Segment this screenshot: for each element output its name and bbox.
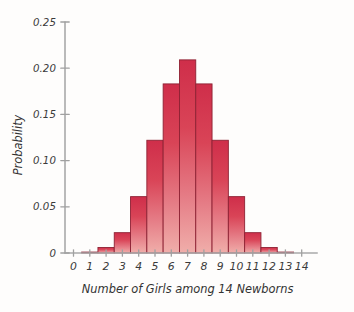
y-tick-label-0.05: 0.05 — [33, 201, 56, 212]
x-tick-label-14: 14 — [295, 260, 309, 273]
x-tick-label-8: 8 — [200, 260, 207, 273]
y-tick-group: 00.050.100.150.200.25 — [33, 17, 69, 259]
y-tick-label-0.20: 0.20 — [33, 63, 56, 74]
x-tick-label-4: 4 — [135, 260, 142, 273]
y-axis-title: Probability — [11, 114, 25, 175]
x-tick-label-6: 6 — [168, 260, 175, 273]
x-tick-label-9: 9 — [217, 260, 224, 273]
x-axis-title: Number of Girls among 14 Newborns — [82, 282, 294, 296]
probability-histogram-figure: 00.050.100.150.200.25 012345678910111213… — [0, 0, 354, 312]
bar-5 — [147, 140, 163, 253]
bar-9 — [212, 140, 228, 253]
x-tick-label-10: 10 — [230, 260, 244, 273]
bar-6 — [163, 84, 179, 253]
plot-area: 00.050.100.150.200.25 012345678910111213… — [0, 0, 354, 312]
chart-canvas: 00.050.100.150.200.25 012345678910111213… — [0, 0, 354, 312]
x-tick-label-11: 11 — [246, 260, 260, 273]
x-tick-label-2: 2 — [103, 260, 110, 273]
y-tick-label-0: 0 — [49, 248, 56, 259]
bar-4 — [131, 197, 147, 253]
bars-group — [82, 60, 294, 253]
bar-10 — [228, 197, 244, 253]
bar-7 — [179, 60, 195, 253]
x-tick-label-12: 12 — [262, 260, 276, 273]
x-tick-label-13: 13 — [278, 260, 292, 273]
y-tick-label-0.10: 0.10 — [33, 155, 56, 166]
bar-8 — [196, 84, 212, 253]
y-tick-label-0.15: 0.15 — [33, 109, 56, 120]
x-tick-label-7: 7 — [184, 260, 191, 273]
y-tick-label-0.25: 0.25 — [33, 17, 56, 28]
x-tick-label-1: 1 — [86, 260, 93, 273]
x-tick-label-5: 5 — [152, 260, 159, 273]
x-tick-label-3: 3 — [119, 260, 126, 273]
x-tick-label-0: 0 — [70, 260, 77, 273]
